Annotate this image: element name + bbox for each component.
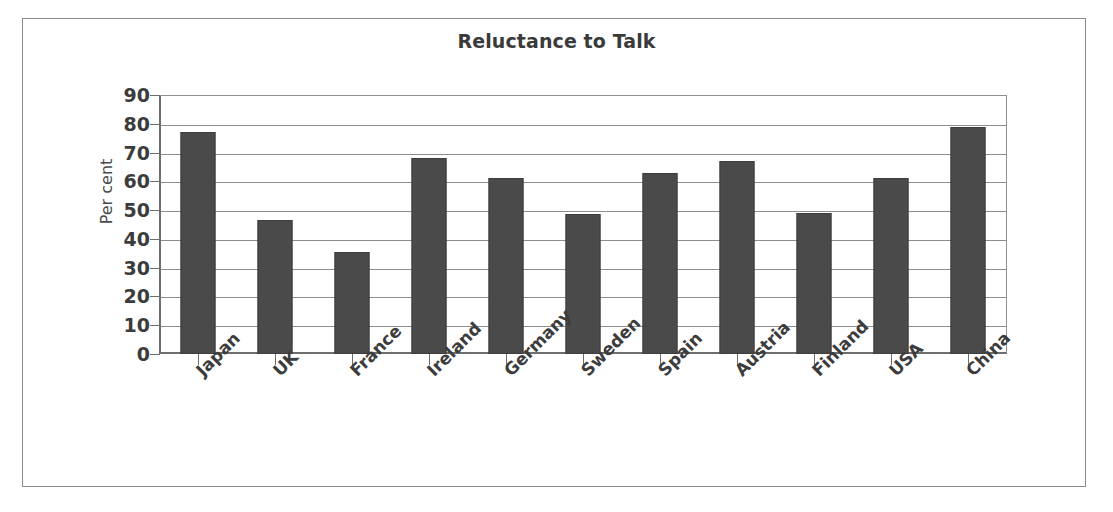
bar (257, 220, 292, 354)
bar (951, 127, 986, 354)
bar-slot (159, 95, 236, 354)
bar (874, 178, 909, 354)
bar (797, 213, 832, 354)
y-axis-tick-label: 80 (90, 113, 150, 135)
bar-slot (236, 95, 313, 354)
y-axis-tick-label: 60 (90, 170, 150, 192)
chart-title: Reluctance to Talk (0, 30, 1113, 52)
y-axis-tick-label: 90 (90, 84, 150, 106)
y-axis-tick-label: 70 (90, 142, 150, 164)
bar (565, 214, 600, 354)
bar-slot (776, 95, 853, 354)
y-axis-tick-labels: 9080706050403020100 (88, 95, 150, 354)
bar-slot (313, 95, 390, 354)
chart-page: Reluctance to Talk Per cent 908070605040… (0, 0, 1113, 512)
y-axis-tick-label: 40 (90, 228, 150, 250)
bar (643, 173, 678, 354)
bar-series (159, 95, 1007, 354)
y-axis-tick-label: 30 (90, 257, 150, 279)
bar-slot (467, 95, 544, 354)
bar (488, 178, 523, 354)
bar-slot (930, 95, 1007, 354)
bar (334, 252, 369, 354)
bar-slot (853, 95, 930, 354)
bar (411, 158, 446, 354)
y-axis-tick-label: 10 (90, 314, 150, 336)
y-axis-tick-label: 50 (90, 199, 150, 221)
y-axis-tick-label: 0 (90, 343, 150, 365)
y-axis-tick-label: 20 (90, 285, 150, 307)
bar-slot (390, 95, 467, 354)
bar-slot (699, 95, 776, 354)
bar (720, 161, 755, 354)
x-axis-tick-labels: JapanUKFranceIrelandGermanySwedenSpainAu… (159, 366, 1007, 446)
bar (180, 132, 215, 354)
